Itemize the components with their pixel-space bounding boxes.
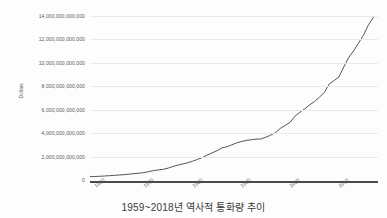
chart-figure: 02,000,000,000,0004,000,000,000,0006,000…	[0, 0, 387, 218]
plot-area	[90, 16, 378, 180]
y-tick-label: 8,000,000,000,000	[42, 83, 85, 89]
y-tick-label: 2,000,000,000,000	[42, 154, 85, 160]
y-tick-label: 4,000,000,000,000	[42, 130, 85, 136]
chart-caption: 1959~2018년 역사적 통화량 추이	[0, 199, 387, 214]
gridline	[90, 86, 378, 87]
y-tick-label: 0	[82, 177, 85, 183]
y-tick-label: 10,000,000,000,000	[39, 60, 85, 66]
gridline	[90, 16, 378, 17]
gridline	[90, 110, 378, 111]
gridline	[90, 157, 378, 158]
gridline	[90, 133, 378, 134]
y-axis-title: Dollars	[19, 83, 24, 98]
line-series-money-supply	[90, 16, 378, 180]
gridline	[90, 63, 378, 64]
gridline	[90, 39, 378, 40]
y-tick-label: 14,000,000,000,000	[39, 13, 85, 19]
y-tick-label: 12,000,000,000,000	[39, 36, 85, 42]
y-axis-tick-labels: 02,000,000,000,0004,000,000,000,0006,000…	[0, 16, 85, 180]
y-tick-label: 6,000,000,000,000	[42, 107, 85, 113]
